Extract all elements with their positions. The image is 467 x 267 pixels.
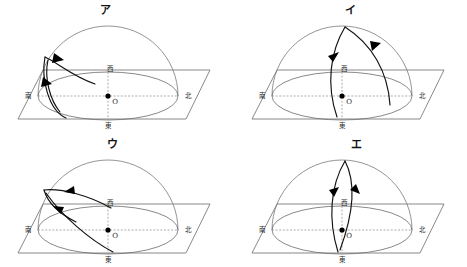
panel-a-label: ア [100, 4, 111, 17]
panel-i-sun-path-right [345, 27, 390, 105]
panel-a-north-label: 北 [185, 92, 192, 100]
panel-i-origin-label: O [346, 98, 352, 106]
panel-u-north-label: 北 [185, 226, 192, 234]
panel-u-horizon-plane [18, 204, 210, 253]
panel-a-arrow-top [52, 53, 64, 63]
panel-e-arrow-left [329, 187, 339, 197]
panel-i-west-label: 西 [341, 65, 348, 73]
celestial-sphere-figure: ア O 南 北 東 西 イ O 南 北 東 西 [0, 0, 467, 267]
panel-e-horizon-plane [252, 204, 444, 253]
panel-a-origin-dot [105, 93, 110, 98]
panel-i-east-label: 東 [339, 121, 346, 130]
panel-u-east-label: 東 [105, 255, 112, 264]
panel-i: イ O 南 北 東 西 [252, 4, 444, 130]
panel-a-south-label: 南 [25, 91, 32, 100]
panel-e: エ O 南 北 東 西 [252, 138, 444, 264]
panel-u-south-label: 南 [25, 225, 32, 234]
panel-a: ア O 南 北 東 西 [18, 4, 210, 130]
panel-e-west-label: 西 [341, 199, 348, 207]
panel-e-south-label: 南 [259, 225, 266, 234]
panel-i-horizon-plane [252, 70, 444, 119]
panel-a-origin-label: O [112, 98, 118, 106]
panel-i-north-label: 北 [419, 92, 426, 100]
panel-i-south-label: 南 [259, 91, 266, 100]
panel-u-sun-path-upper [44, 190, 111, 208]
panel-u: ウ O 南 北 東 西 [18, 138, 210, 264]
panel-u-arrow-top [64, 186, 75, 194]
panel-e-dome [272, 160, 412, 230]
panel-a-west-label: 西 [107, 65, 114, 73]
panel-a-east-label: 東 [105, 121, 112, 130]
panel-u-dome [38, 160, 178, 230]
panel-i-arrow-right [370, 41, 381, 51]
panel-u-origin-dot [105, 227, 110, 232]
panel-e-origin-dot [339, 227, 344, 232]
panel-e-label: エ [351, 138, 362, 151]
panel-e-origin-label: O [346, 232, 352, 240]
panel-u-sun-path-lower [46, 193, 113, 252]
panel-u-label: ウ [107, 138, 118, 151]
panel-i-label: イ [345, 4, 356, 17]
panel-e-east-label: 東 [339, 255, 346, 264]
panel-i-origin-dot [339, 93, 344, 98]
panel-i-dome [272, 26, 412, 96]
panel-e-north-label: 北 [419, 226, 426, 234]
panel-u-origin-label: O [112, 232, 118, 240]
panel-a-sun-path-inner [47, 60, 60, 112]
